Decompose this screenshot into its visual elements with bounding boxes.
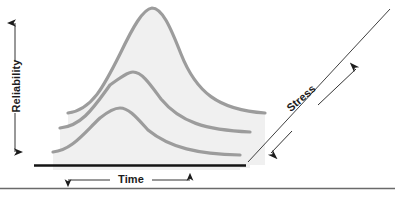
figure-canvas — [0, 0, 395, 197]
reliability-axis-label: Reliability — [10, 53, 22, 119]
time-axis-label: Time — [113, 173, 149, 185]
reliability-stress-time-figure: Reliability Time Stress — [0, 0, 395, 197]
curve-fill-group — [53, 8, 265, 170]
